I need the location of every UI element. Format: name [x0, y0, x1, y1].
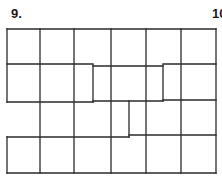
grid-diagram	[0, 0, 222, 178]
